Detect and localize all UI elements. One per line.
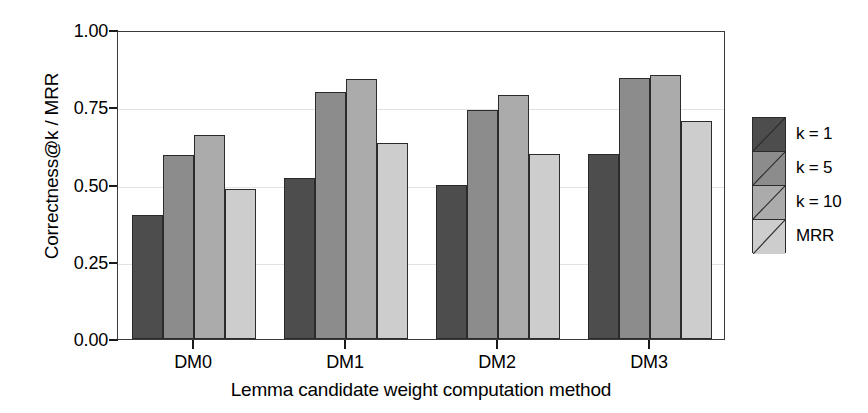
- bar: [650, 75, 681, 339]
- bar: [529, 154, 560, 339]
- x-tick-label: DM0: [148, 352, 238, 373]
- bar: [194, 135, 225, 339]
- legend-swatch: [753, 186, 785, 220]
- y-tick-label: 0.75: [44, 98, 108, 119]
- x-tick-mark: [496, 340, 498, 349]
- y-tick-label: 0.50: [44, 175, 108, 196]
- bar: [436, 185, 467, 340]
- legend-label: k = 1: [796, 124, 832, 144]
- bar: [619, 78, 650, 339]
- plot-area: [117, 31, 725, 340]
- x-tick-label: DM1: [300, 352, 390, 373]
- bar-chart-figure: Correctness@k / MRR 0.000.250.500.751.00…: [0, 0, 868, 413]
- bar: [284, 178, 315, 339]
- bars-container: [118, 32, 724, 339]
- x-tick-mark: [344, 340, 346, 349]
- bar: [163, 155, 194, 339]
- legend-label: k = 5: [796, 158, 832, 178]
- y-tick-label: 0.25: [44, 252, 108, 273]
- bar: [498, 95, 529, 339]
- bar-group: [118, 32, 270, 339]
- x-axis-title: Lemma candidate weight computation metho…: [117, 379, 725, 401]
- bar-group: [270, 32, 422, 339]
- bar: [315, 92, 346, 339]
- bar-group: [574, 32, 726, 339]
- x-tick-mark: [192, 340, 194, 349]
- x-tick-label: DM2: [452, 352, 542, 373]
- bar-group: [422, 32, 574, 339]
- legend-label: k = 10: [796, 192, 842, 212]
- bar: [681, 121, 712, 339]
- legend-swatch: [753, 152, 785, 186]
- bar: [377, 143, 408, 339]
- x-tick-label: DM3: [604, 352, 694, 373]
- bar: [132, 215, 163, 339]
- bar: [346, 79, 377, 339]
- bar: [467, 110, 498, 339]
- y-tick-label: 1.00: [44, 21, 108, 42]
- legend-label: MRR: [796, 226, 834, 246]
- legend-swatch: [753, 118, 785, 152]
- legend-hatch-icon: [753, 220, 785, 254]
- legend-swatch-stack: [752, 117, 786, 253]
- x-tick-mark: [648, 340, 650, 349]
- legend-swatch: [753, 220, 785, 254]
- legend-hatch-icon: [753, 186, 785, 219]
- bar: [588, 154, 619, 339]
- legend-hatch-icon: [753, 118, 785, 151]
- legend-hatch-icon: [753, 152, 785, 185]
- y-tick-label: 0.00: [44, 330, 108, 351]
- bar: [225, 189, 256, 339]
